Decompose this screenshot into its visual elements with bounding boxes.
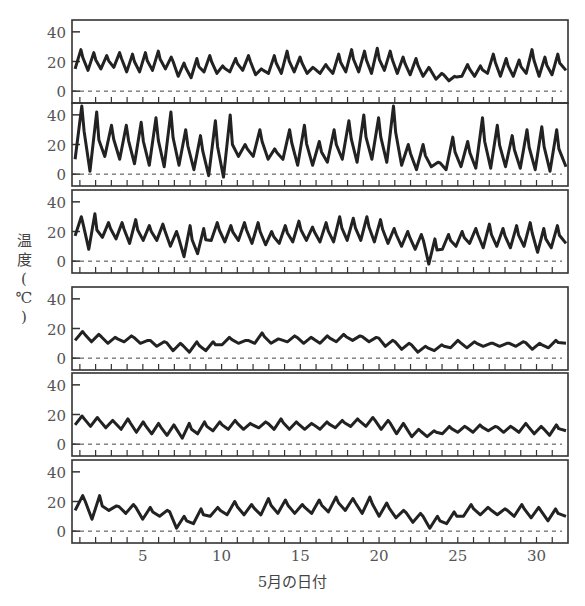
temperature-series-line xyxy=(75,332,566,353)
y-tick-label: 40 xyxy=(47,464,66,482)
panel-frame xyxy=(72,287,568,370)
x-tick-label: 25 xyxy=(448,547,467,565)
y-tick-label: 0 xyxy=(56,523,66,541)
x-tick-label: 15 xyxy=(291,547,310,565)
temperature-series-line xyxy=(75,48,566,81)
y-tick-label: 20 xyxy=(47,407,66,425)
y-tick-label: 20 xyxy=(47,494,66,512)
x-tick-label: 10 xyxy=(212,547,231,565)
temperature-series-line xyxy=(75,496,566,529)
x-tick-label: 20 xyxy=(370,547,389,565)
y-axis-label-char: ℃ xyxy=(14,289,34,308)
temperature-series-line xyxy=(75,416,566,438)
y-tick-label: 20 xyxy=(47,54,66,72)
x-tick-label: 30 xyxy=(527,547,546,565)
y-tick-label: 20 xyxy=(47,137,66,155)
y-tick-label: 0 xyxy=(56,166,66,184)
chart-figure: 0204002040020400204002040020405101520253… xyxy=(0,0,585,606)
y-tick-label: 20 xyxy=(47,321,66,339)
y-tick-label: 0 xyxy=(56,350,66,368)
x-axis-label: 5月の日付 xyxy=(0,570,585,591)
y-tick-label: 40 xyxy=(47,377,66,395)
y-tick-label: 0 xyxy=(56,83,66,101)
y-tick-label: 40 xyxy=(47,194,66,212)
x-tick-label: 5 xyxy=(138,547,148,565)
y-axis-label-char: ) xyxy=(14,308,34,327)
y-axis-label-char: 度 xyxy=(14,251,34,270)
temperature-series-line xyxy=(75,214,566,264)
y-tick-label: 20 xyxy=(47,224,66,242)
temperature-series-line xyxy=(75,106,566,177)
y-tick-label: 0 xyxy=(56,253,66,271)
y-axis-label-char: ( xyxy=(14,270,34,289)
panel-frame xyxy=(72,373,568,456)
y-tick-label: 40 xyxy=(47,107,66,125)
y-axis-label: 温 度 ( ℃ ) xyxy=(14,232,34,327)
y-tick-label: 40 xyxy=(47,24,66,42)
y-tick-label: 0 xyxy=(56,436,66,454)
y-tick-label: 40 xyxy=(47,291,66,309)
y-axis-label-char: 温 xyxy=(14,232,34,251)
